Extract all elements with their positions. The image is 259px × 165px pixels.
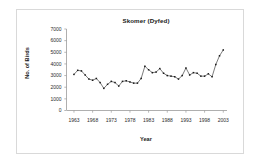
data-point-marker [114,82,116,84]
plot-area: Skomer (Dyfed) No. of Birds Year 7000600… [0,0,259,165]
data-point-marker [223,49,225,51]
y-tick-label: 0 [40,107,62,113]
data-point-marker [208,73,210,75]
y-tick-label: 7000 [40,26,62,32]
data-point-marker [189,74,191,76]
data-point-marker [129,81,131,83]
chart-svg [0,0,259,165]
y-tick-label: 1000 [40,96,62,102]
data-point-marker [103,88,105,90]
data-point-marker [96,78,98,80]
data-point-marker [204,75,206,77]
data-point-marker [167,75,169,77]
data-point-marker [219,55,221,57]
data-point-marker [148,69,150,71]
y-tick-label: 5000 [40,49,62,55]
x-tick-label: 2003 [210,117,236,123]
data-point-marker [200,75,202,77]
data-point-marker [73,74,75,76]
data-point-marker [211,76,213,78]
y-tick-label: 3000 [40,72,62,78]
data-point-marker [88,78,90,80]
data-point-marker [107,84,109,86]
data-point-marker [77,70,79,72]
data-point-marker [181,75,183,77]
y-tick-label: 6000 [40,37,62,43]
data-markers [73,49,224,89]
data-point-marker [81,70,83,72]
y-tick-label: 2000 [40,84,62,90]
data-point-marker [99,82,101,84]
data-point-marker [125,80,127,82]
data-point-marker [92,79,94,81]
axes-group [64,29,227,113]
data-point-marker [174,76,176,78]
data-point-marker [111,81,113,83]
data-point-marker [122,81,124,83]
data-point-marker [140,78,142,80]
data-point-marker [170,75,172,77]
data-point-marker [152,72,154,74]
data-point-marker [178,78,180,80]
data-point-marker [185,67,187,69]
data-point-marker [215,64,217,65]
data-point-marker [133,82,135,84]
data-point-marker [159,68,161,70]
y-tick-label: 4000 [40,61,62,67]
figure-canvas: Skomer (Dyfed) No. of Birds Year 7000600… [0,0,259,165]
data-point-marker [155,71,157,73]
data-point-marker [84,74,86,76]
data-point-marker [163,72,165,74]
data-point-marker [193,72,195,74]
data-point-marker [144,66,146,68]
data-point-marker [137,82,139,84]
data-point-marker [196,72,198,74]
data-point-marker [118,85,120,87]
